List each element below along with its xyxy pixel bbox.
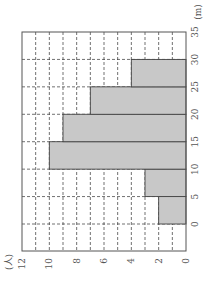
x-tick-label: 0 bbox=[190, 221, 200, 227]
y-tick-label: 12 bbox=[17, 258, 27, 269]
bar-5-10 bbox=[145, 169, 186, 196]
bar-25-30 bbox=[131, 59, 186, 86]
x-tick-label: 30 bbox=[190, 53, 200, 65]
y-tick-label: 0 bbox=[181, 258, 191, 264]
bar-20-25 bbox=[90, 87, 186, 114]
x-axis-label: (m) bbox=[193, 4, 203, 20]
bar-10-15 bbox=[49, 142, 186, 169]
x-tick-label: 35 bbox=[190, 26, 200, 38]
x-tick-label: 25 bbox=[190, 81, 200, 93]
x-tick-label: 5 bbox=[190, 193, 200, 199]
y-axis-ticks: 024681012 bbox=[17, 258, 191, 270]
y-tick-label: 10 bbox=[44, 258, 54, 270]
x-tick-label: 20 bbox=[190, 108, 200, 120]
x-tick-label: 15 bbox=[190, 136, 200, 148]
y-axis-label: (人) bbox=[4, 254, 14, 270]
y-tick-label: 4 bbox=[126, 258, 136, 264]
y-tick-label: 6 bbox=[99, 258, 109, 264]
bar-0-5 bbox=[159, 197, 186, 224]
y-tick-label: 8 bbox=[72, 258, 82, 264]
x-tick-label: 10 bbox=[190, 163, 200, 175]
y-tick-label: 2 bbox=[154, 258, 164, 264]
x-axis-ticks: 05101520253035 bbox=[190, 26, 200, 227]
bar-15-20 bbox=[63, 114, 186, 141]
histogram-chart: 024681012 05101520253035 (人) (m) bbox=[0, 0, 213, 287]
